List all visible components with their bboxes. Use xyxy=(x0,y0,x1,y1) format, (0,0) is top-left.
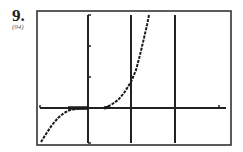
left-branch-curve xyxy=(41,108,88,142)
calculator-graph xyxy=(0,0,243,152)
y-axis xyxy=(88,15,91,143)
x-axis xyxy=(40,105,226,108)
graph-frame xyxy=(37,11,231,145)
flat-segment xyxy=(104,107,110,108)
vertical-asymptotes xyxy=(131,15,175,143)
curve-series xyxy=(41,15,149,142)
right-branch-curve xyxy=(104,15,149,108)
